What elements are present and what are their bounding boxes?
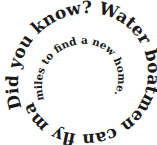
spiral-svg: Did you know? Water boatmen can fly many… (0, 0, 157, 145)
inner-spiral-textpath: miles to find a new home. (32, 34, 128, 102)
outer-spiral-textpath: Did you know? Water boatmen can fly many (0, 0, 157, 145)
outer-spiral-text: Did you know? Water boatmen can fly many (0, 0, 157, 145)
inner-spiral-text: miles to find a new home. (32, 34, 128, 102)
spiral-text-graphic: Did you know? Water boatmen can fly many… (0, 0, 157, 145)
